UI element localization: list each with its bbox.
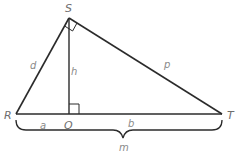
segment-label-a: a: [40, 120, 46, 131]
side-p-ST: [69, 18, 222, 114]
segment-label-m: m: [119, 142, 129, 153]
brace-m: [16, 120, 222, 138]
vertex-label-S: S: [65, 2, 72, 15]
diagram-canvas: S R Q T d h p a b m: [0, 0, 246, 156]
vertex-label-T: T: [227, 109, 235, 122]
segment-label-b: b: [128, 118, 134, 129]
segment-label-h: h: [71, 66, 77, 77]
segment-label-d: d: [30, 60, 37, 71]
vertex-label-R: R: [4, 109, 12, 122]
right-triangle-diagram: S R Q T d h p a b m: [0, 0, 246, 156]
side-d-RS: [16, 18, 69, 114]
vertex-label-Q: Q: [64, 119, 73, 132]
segment-label-p: p: [163, 59, 170, 70]
right-angle-marker-Q: [69, 104, 79, 114]
